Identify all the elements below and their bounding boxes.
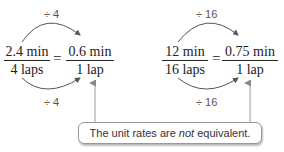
left-equals: = [53,50,61,67]
top-arc-left [22,23,80,42]
callout-emphasis: not [179,127,194,139]
callout-text-after: equivalent. [194,127,250,139]
right-fraction-2: 0.75 min 1 lap [222,44,278,78]
numerator: 2.4 min [4,44,50,61]
left-fraction-1: 2.4 min 4 laps [4,44,50,78]
denominator: 1 lap [222,61,278,78]
right-top-operation: ÷ 16 [196,8,217,20]
numerator: 0.6 min [66,44,114,61]
callout-box: The unit rates are not equivalent. [78,122,262,144]
left-fraction-2: 0.6 min 1 lap [66,44,114,78]
right-equals: = [212,50,220,67]
right-bottom-operation: ÷ 16 [196,96,217,108]
denominator: 4 laps [4,61,50,78]
callout-text-before: The unit rates are [90,127,179,139]
left-top-operation: ÷ 4 [44,8,59,20]
right-fraction-1: 12 min 16 laps [162,44,208,78]
numerator: 12 min [162,44,208,61]
bottom-arc-right [178,78,238,89]
bottom-arc-left [22,78,80,89]
denominator: 1 lap [66,61,114,78]
numerator: 0.75 min [222,44,278,61]
denominator: 16 laps [162,61,208,78]
left-bottom-operation: ÷ 4 [44,96,59,108]
top-arc-right [178,23,238,42]
